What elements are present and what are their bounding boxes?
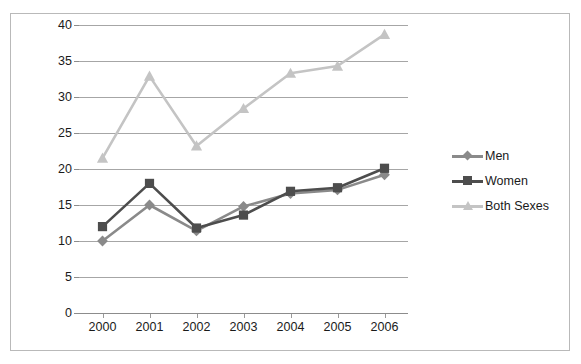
legend-item-men[interactable]: Men (452, 146, 509, 166)
series-layer (79, 25, 408, 313)
x-axis-tick-labels: 2000200120022003200420052006 (0, 320, 581, 340)
y-axis-tick-label: 35 (58, 55, 72, 67)
series-both-sexes (97, 29, 390, 163)
legend-item-both-sexes[interactable]: Both Sexes (452, 196, 549, 216)
legend-swatch (452, 199, 483, 213)
y-axis-tick-label: 10 (58, 235, 72, 247)
x-axis-tick-mark (291, 314, 292, 318)
data-point-marker (379, 29, 390, 39)
y-axis-tick-mark (74, 205, 79, 206)
data-point-marker (239, 210, 248, 219)
chart-container: Thousands 0510152025303540 2000200120022… (0, 0, 581, 364)
y-axis-tick-mark (74, 169, 79, 170)
data-point-marker (380, 164, 389, 173)
legend-marker-square-icon (463, 176, 472, 185)
y-axis-tick-label: 0 (65, 307, 72, 319)
legend-swatch (452, 149, 483, 163)
x-axis-tick-mark (244, 314, 245, 318)
x-axis-tick-label: 2002 (172, 320, 222, 334)
y-axis-tick-mark (74, 61, 79, 62)
y-axis-tick-label: 25 (58, 127, 72, 139)
data-point-marker (192, 223, 201, 232)
legend-label: Men (485, 149, 509, 163)
y-axis-tick-mark (74, 241, 79, 242)
legend-label: Both Sexes (485, 199, 549, 213)
series-line (103, 34, 385, 158)
y-axis-tick-label: 40 (58, 19, 72, 31)
x-axis-tick-mark (103, 314, 104, 318)
x-axis-tick-mark (338, 314, 339, 318)
data-point-marker (238, 201, 249, 212)
x-axis-tick-label: 2005 (313, 320, 363, 334)
y-axis-tick-mark (74, 25, 79, 26)
y-axis-tick-label: 5 (65, 271, 72, 283)
data-point-marker (333, 183, 342, 192)
y-axis-tick-mark (74, 313, 79, 314)
x-axis-tick-label: 2000 (78, 320, 128, 334)
y-axis-tick-labels: 0510152025303540 (38, 0, 72, 364)
x-axis-tick-label: 2001 (125, 320, 175, 334)
series-men (97, 169, 390, 246)
y-axis-tick-mark (74, 133, 79, 134)
x-axis-tick-label: 2006 (360, 320, 410, 334)
legend-item-women[interactable]: Women (452, 171, 528, 191)
data-point-marker (145, 179, 154, 188)
data-point-marker (144, 71, 155, 81)
legend-label: Women (485, 174, 528, 188)
chart-legend: MenWomenBoth Sexes (452, 146, 572, 222)
y-axis-tick-label: 15 (58, 199, 72, 211)
data-point-marker (286, 187, 295, 196)
series-women (98, 164, 389, 233)
data-point-marker (97, 153, 108, 163)
plot-area (79, 25, 408, 313)
data-point-marker (98, 222, 107, 231)
legend-marker-diamond-icon (463, 151, 473, 161)
y-axis-tick-label: 30 (58, 91, 72, 103)
x-axis-tick-mark (197, 314, 198, 318)
x-axis-tick-label: 2003 (219, 320, 269, 334)
x-axis-tick-mark (385, 314, 386, 318)
x-axis-tick-label: 2004 (266, 320, 316, 334)
y-axis-tick-label: 20 (58, 163, 72, 175)
legend-marker-triangle-icon (463, 201, 473, 210)
legend-swatch (452, 174, 483, 188)
x-axis-tick-mark (150, 314, 151, 318)
y-axis-tick-mark (74, 97, 79, 98)
y-axis-tick-mark (74, 277, 79, 278)
